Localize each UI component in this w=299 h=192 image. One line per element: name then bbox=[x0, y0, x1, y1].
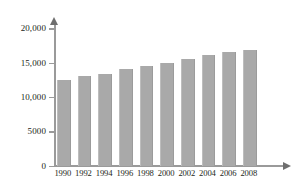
x-axis-label-2004: 2004 bbox=[196, 168, 218, 178]
plot-area: 20,000 15,000 10,000 5000 0 1990 1992 19… bbox=[0, 0, 299, 192]
x-axis-label-1998: 1998 bbox=[134, 168, 156, 178]
bar-chart: 20,000 15,000 10,000 5000 0 1990 1992 19… bbox=[0, 0, 299, 192]
bar-2002 bbox=[181, 59, 195, 165]
y-axis-label-5000: 5000 bbox=[28, 126, 46, 136]
y-axis-tick bbox=[49, 28, 54, 30]
y-axis-label-0: 0 bbox=[41, 161, 46, 171]
bar-2006 bbox=[222, 52, 236, 165]
x-axis-label-2002: 2002 bbox=[176, 168, 198, 178]
y-axis-tick bbox=[49, 131, 54, 133]
bar-1990 bbox=[57, 80, 71, 166]
y-axis-tick bbox=[49, 97, 54, 99]
y-axis-tick bbox=[49, 63, 54, 65]
bar-2008 bbox=[243, 50, 257, 165]
x-axis-label-2000: 2000 bbox=[155, 168, 177, 178]
y-axis-label-15000: 15,000 bbox=[21, 58, 46, 68]
y-axis-tick bbox=[49, 166, 54, 168]
bar-2000 bbox=[160, 63, 174, 165]
x-axis-label-1992: 1992 bbox=[72, 168, 94, 178]
bar-2004 bbox=[202, 55, 216, 166]
y-axis-arrow-icon bbox=[50, 17, 58, 25]
x-axis-label-1994: 1994 bbox=[93, 168, 115, 178]
bar-1992 bbox=[78, 76, 92, 165]
bar-1994 bbox=[98, 74, 112, 166]
y-axis-label-10000: 10,000 bbox=[21, 92, 46, 102]
x-axis-label-1996: 1996 bbox=[114, 168, 136, 178]
x-axis-arrow-icon bbox=[283, 162, 291, 170]
x-axis-label-2006: 2006 bbox=[217, 168, 239, 178]
bar-1996 bbox=[119, 69, 133, 166]
y-axis-line bbox=[54, 24, 56, 166]
bar-1998 bbox=[140, 66, 154, 166]
x-axis-label-1990: 1990 bbox=[52, 168, 74, 178]
y-axis-label-20000: 20,000 bbox=[21, 23, 46, 33]
x-axis-label-2008: 2008 bbox=[238, 168, 260, 178]
